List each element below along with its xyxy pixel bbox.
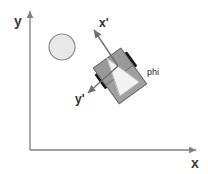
x-prime-axis-label: x' <box>99 16 109 30</box>
y-prime-axis-label: y' <box>75 92 85 106</box>
heading-angle-label: phi <box>147 67 159 77</box>
obstacle-circle <box>49 34 75 60</box>
robot-pose-diagram: y x x' y' phi <box>0 0 208 174</box>
diagram-canvas: y x x' y' phi <box>0 0 208 174</box>
x-axis-label: x <box>191 155 199 171</box>
y-axis-label: y <box>14 13 22 29</box>
robot-vehicle <box>91 46 149 105</box>
